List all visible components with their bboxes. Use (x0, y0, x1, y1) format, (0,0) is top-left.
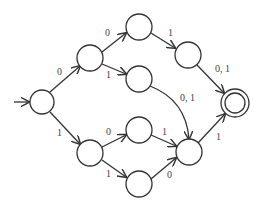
label-q9-q5: 1 (216, 131, 221, 142)
state-q7 (126, 117, 152, 143)
state-q5-accept-inner (225, 93, 245, 113)
state-q3 (175, 42, 201, 68)
label-q1-q4: 1 (106, 69, 111, 80)
label-q6-q8: 1 (106, 168, 111, 179)
label-q3-q5: 0, 1 (215, 63, 230, 74)
label-q0-q1: 0 (57, 66, 62, 77)
state-q1 (77, 45, 103, 71)
state-q2 (126, 14, 152, 40)
label-q0-q6: 1 (57, 127, 62, 138)
state-q0-start (30, 90, 54, 114)
label-q8-q9: 0 (167, 169, 172, 180)
state-q9 (176, 139, 202, 165)
label-q4-q9: 0, 1 (180, 92, 195, 103)
label-q6-q7: 0 (106, 126, 111, 137)
edge-q0-q1 (50, 66, 80, 92)
state-q6 (77, 140, 103, 166)
state-q4 (126, 66, 152, 92)
edge-q8-q9 (151, 158, 176, 179)
diagram-svg: 0 0 1 1 0, 1 0, 1 1 0 1 1 0 1 (0, 0, 264, 202)
label-q1-q2: 0 (105, 27, 110, 38)
edge-q0-q6 (50, 112, 80, 144)
state-q8 (126, 171, 152, 197)
label-q2-q3: 1 (168, 27, 173, 38)
label-q7-q9: 1 (162, 126, 167, 137)
automaton-diagram: 0 0 1 1 0, 1 0, 1 1 0 1 1 0 1 (0, 0, 264, 202)
